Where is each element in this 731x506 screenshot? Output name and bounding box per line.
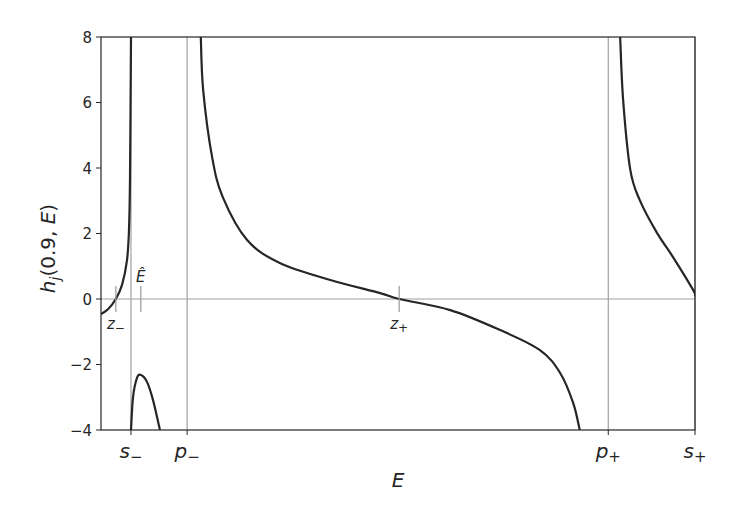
branch-middle-curve bbox=[201, 37, 580, 430]
y-tick-label: −2 bbox=[70, 356, 92, 374]
x-tick-label: p+ bbox=[595, 439, 621, 466]
x-tick-label: s+ bbox=[684, 439, 707, 466]
y-tick-label: −4 bbox=[70, 422, 92, 440]
annotation-subscript: − bbox=[115, 321, 125, 335]
y-label-var: E bbox=[36, 211, 60, 224]
branch-hump-curve bbox=[131, 375, 160, 430]
x-tick-subscript: + bbox=[608, 448, 621, 466]
annotation-symbol: Ê bbox=[136, 267, 146, 286]
y-label-close: ) bbox=[36, 204, 60, 212]
x-tick-symbol: p bbox=[173, 439, 187, 463]
x-tick-subscript: − bbox=[187, 448, 200, 466]
x-tick-symbol: s bbox=[119, 439, 129, 463]
annotation-subscript: + bbox=[398, 321, 408, 335]
annotation-label: z− bbox=[106, 315, 125, 335]
y-tick-label: 4 bbox=[82, 160, 92, 178]
y-ticks: −4−202468 bbox=[70, 29, 101, 440]
x-axis-label: E bbox=[392, 468, 405, 492]
x-tick-subscript: − bbox=[130, 448, 143, 466]
annotation-label: Ê bbox=[136, 267, 146, 286]
x-tick-symbol: s bbox=[684, 439, 694, 463]
curves bbox=[101, 37, 695, 430]
reference-lines bbox=[101, 37, 695, 430]
y-label-h: h bbox=[36, 280, 60, 293]
annotations: z−Êz+ bbox=[106, 267, 408, 335]
x-tick-symbol: p bbox=[595, 439, 609, 463]
y-tick-label: 6 bbox=[82, 94, 92, 112]
annotation-label: z+ bbox=[389, 315, 408, 335]
y-label-args: (0.9, bbox=[36, 224, 60, 276]
x-tick-label: s− bbox=[119, 439, 142, 466]
y-tick-label: 2 bbox=[82, 225, 92, 243]
x-tick-subscript: + bbox=[694, 448, 707, 466]
axes-frame bbox=[101, 37, 695, 430]
x-ticks: s−p−p+s+ bbox=[119, 430, 706, 466]
x-tick-label: p− bbox=[173, 439, 199, 466]
y-tick-label: 0 bbox=[82, 291, 92, 309]
y-axis-label: hj(0.9, E) bbox=[36, 204, 63, 293]
branch-left-curve bbox=[101, 37, 131, 314]
chart: z−Êz+ −4−202468 s−p−p+s+ E hj(0.9, E) bbox=[0, 0, 731, 506]
branch-right-curve bbox=[620, 37, 695, 296]
y-tick-label: 8 bbox=[82, 29, 92, 47]
